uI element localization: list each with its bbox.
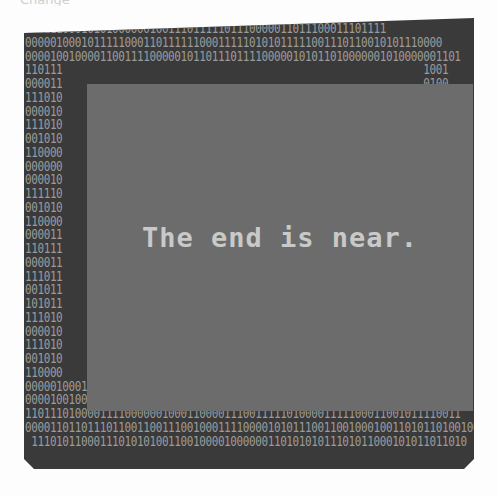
message-panel: The end is near. [87,84,473,411]
binary-row: 1111110001010100000010011101111101110000… [25,21,474,35]
binary-frame: 1111110001010100000010011101111101110000… [24,18,474,469]
binary-row: 0000110110111011001100111001000111100001… [25,419,474,433]
binary-row: 0000100100001100111100000101101110111100… [25,48,474,62]
image-canvas: Change 111111000101010000001001110111110… [0,0,498,496]
binary-row: 0000010001011111000110111111000111110101… [25,34,474,48]
binary-row: 110111 1001 [25,62,474,76]
headline-text: The end is near. [142,222,418,253]
caption-fragment: Change [20,0,120,6]
binary-row: 1110101100011101010100110010000100000011… [25,433,474,447]
